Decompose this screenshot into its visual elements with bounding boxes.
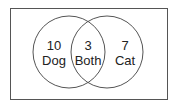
venn-diagram: 10 Dog 3 Both 7 Cat bbox=[0, 0, 177, 105]
cat-count: 7 bbox=[121, 38, 128, 53]
both-label: Both bbox=[75, 53, 102, 68]
dog-label: Dog bbox=[42, 53, 66, 68]
dog-circle bbox=[33, 16, 105, 88]
cat-label: Cat bbox=[115, 53, 136, 68]
dog-count: 10 bbox=[47, 38, 61, 53]
cat-circle bbox=[71, 16, 143, 88]
both-count: 3 bbox=[84, 38, 91, 53]
